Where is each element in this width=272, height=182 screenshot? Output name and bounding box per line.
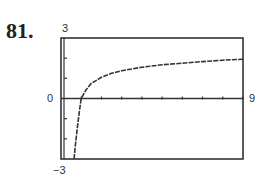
graph-plot <box>0 0 272 182</box>
function-curve <box>74 59 243 159</box>
